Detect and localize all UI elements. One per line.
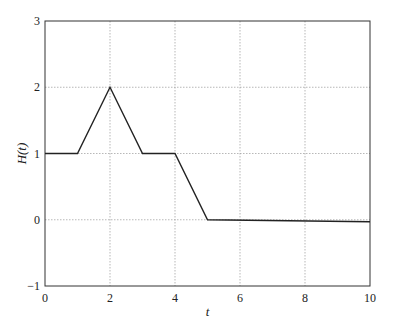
series-line <box>45 87 370 221</box>
y-tick-label: 1 <box>34 147 40 161</box>
x-tick-label: 2 <box>107 291 113 305</box>
x-tick-label: 0 <box>42 291 48 305</box>
y-tick-label: −1 <box>27 279 40 293</box>
grid-lines <box>45 21 370 286</box>
x-axis-ticks: 0246810 <box>42 291 376 305</box>
x-tick-label: 4 <box>172 291 178 305</box>
y-tick-label: 0 <box>34 213 40 227</box>
y-axis-label: H(t) <box>14 143 29 166</box>
y-tick-label: 3 <box>34 14 40 28</box>
x-tick-label: 10 <box>364 291 376 305</box>
x-tick-label: 8 <box>302 291 308 305</box>
line-chart: 0246810 −10123 t H(t) <box>0 0 395 325</box>
y-tick-label: 2 <box>34 80 40 94</box>
y-axis-ticks: −10123 <box>27 14 40 293</box>
x-axis-label: t <box>206 304 210 319</box>
x-tick-label: 6 <box>237 291 243 305</box>
